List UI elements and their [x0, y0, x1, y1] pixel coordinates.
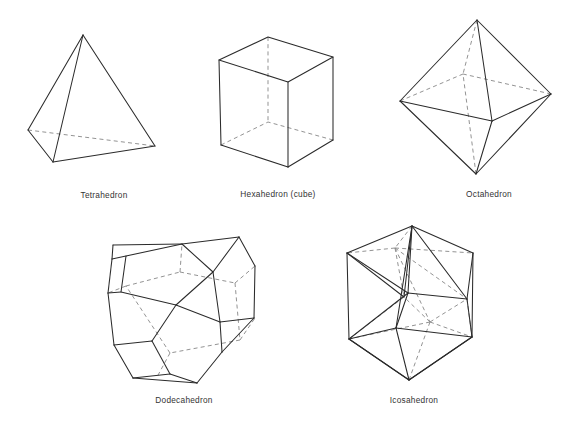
icosahedron-edge	[347, 253, 404, 297]
dodecahedron-edge	[114, 341, 152, 345]
tetrahedron-edge	[28, 130, 53, 162]
dodecahedron-edge	[113, 244, 182, 245]
dodecahedron-hidden-edge	[235, 266, 255, 283]
icosahedron-edge	[347, 226, 412, 253]
icosahedron-edge	[347, 253, 408, 293]
dodecahedron-edge	[112, 245, 113, 259]
caption-octahedron: Octahedron	[466, 189, 512, 199]
dodecahedron-hidden-edge	[157, 353, 170, 377]
icosahedron-hidden-edges	[347, 226, 473, 380]
icosahedron-edge	[409, 337, 472, 380]
dodecahedron-edge	[114, 345, 133, 378]
icosahedron-edge	[472, 253, 473, 337]
dodecahedron-edge	[220, 322, 222, 352]
octahedron-edge	[477, 20, 492, 121]
tetrahedron-edge	[53, 146, 155, 162]
hexahedron-edge	[288, 140, 333, 167]
octahedron-edge	[492, 94, 551, 121]
dodecahedron-hidden-edge	[235, 283, 240, 340]
hexahedron-hidden-edges	[221, 37, 333, 145]
octahedron-hidden-edge	[463, 74, 476, 174]
caption-hexahedron: Hexahedron (cube)	[240, 189, 315, 199]
octahedron-hidden-edge	[400, 74, 463, 101]
dodecahedron-edge	[254, 266, 255, 318]
icosahedron-hidden-edge	[430, 299, 467, 322]
dodecahedron-edge	[152, 305, 176, 341]
tetrahedron-edge	[53, 35, 83, 162]
dodecahedron-edge	[213, 237, 239, 272]
dodecahedron-edge	[176, 305, 220, 322]
octahedron-hidden-edges	[400, 20, 551, 174]
dodecahedron-edge	[133, 374, 170, 378]
caption-icosahedron: Icosahedron	[390, 395, 439, 405]
tetrahedron-visible-edges	[28, 35, 155, 162]
tetrahedron-hidden-edges	[28, 130, 155, 146]
dodecahedron-edge	[182, 237, 239, 244]
dodecahedron-hidden-edge	[240, 318, 255, 340]
dodecahedron-edge	[112, 256, 126, 259]
hexahedron-top-face	[219, 37, 333, 82]
dodecahedron-hidden-edge	[180, 244, 182, 272]
octahedron-edge	[400, 101, 476, 174]
icosahedron-edge	[467, 299, 472, 337]
platonic-solids-figure: Tetrahedron Hexahedron (cube)	[0, 0, 576, 425]
icosahedron-edge	[396, 226, 412, 328]
octahedron-hidden-edge	[463, 74, 551, 94]
hexahedron-visible-edges	[219, 37, 333, 167]
octahedron-edge	[477, 20, 551, 94]
tetrahedron-edge	[83, 35, 155, 146]
figure-icosahedron: Icosahedron	[347, 226, 473, 405]
octahedron-edge	[476, 94, 551, 174]
icosahedron-hidden-edge	[395, 248, 473, 253]
octahedron-visible-edges	[400, 20, 551, 174]
hexahedron-edge	[219, 60, 221, 145]
hexahedron-hidden-edge	[268, 122, 333, 140]
dodecahedron-top-face	[121, 244, 213, 305]
dodecahedron-hidden-edge	[126, 272, 180, 286]
caption-tetrahedron: Tetrahedron	[80, 190, 127, 200]
icosahedron-edge	[347, 253, 349, 339]
figure-tetrahedron: Tetrahedron	[28, 35, 155, 200]
dodecahedron-hidden-edges	[108, 244, 255, 377]
octahedron-edge	[400, 20, 477, 101]
icosahedron-edge	[412, 226, 473, 253]
dodecahedron-visible-edges	[108, 237, 255, 383]
icosahedron-edge	[408, 293, 467, 299]
hexahedron-edge	[221, 145, 288, 167]
figure-hexahedron: Hexahedron (cube)	[219, 37, 333, 199]
figure-octahedron: Octahedron	[400, 20, 551, 199]
icosahedron-hidden-edge	[395, 248, 430, 322]
dodecahedron-edge	[222, 318, 254, 352]
figure-dodecahedron: Dodecahedron	[108, 237, 255, 405]
octahedron-edge	[400, 101, 492, 121]
dodecahedron-edge	[239, 237, 255, 266]
dodecahedron-edge	[108, 259, 112, 293]
dodecahedron-edge	[133, 378, 197, 383]
tetrahedron-hidden-edge	[28, 130, 155, 146]
dodecahedron-hidden-edge	[170, 340, 240, 353]
hexahedron-hidden-edge	[221, 122, 268, 145]
caption-dodecahedron: Dodecahedron	[155, 395, 213, 405]
icosahedron-edge	[412, 226, 467, 299]
dodecahedron-edge	[220, 318, 254, 322]
icosahedron-hidden-edge	[404, 297, 430, 322]
dodecahedron-edge	[108, 293, 114, 345]
dodecahedron-edge	[197, 352, 222, 383]
tetrahedron-edge	[28, 35, 83, 130]
